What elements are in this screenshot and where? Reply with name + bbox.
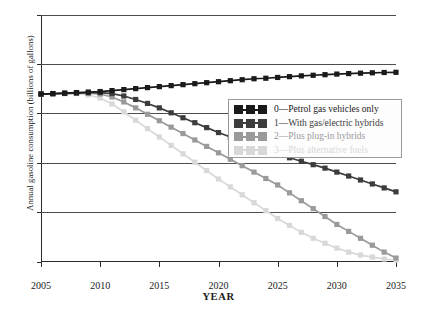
data-point-marker bbox=[192, 81, 197, 86]
data-point-marker bbox=[180, 115, 185, 120]
x-tick-mark bbox=[100, 262, 101, 267]
data-point-marker bbox=[228, 78, 233, 83]
legend-marker-icon bbox=[234, 146, 267, 155]
legend-marker-icon bbox=[234, 119, 267, 128]
legend-label: 0—Petrol gas vehicles only bbox=[274, 103, 379, 117]
data-point-marker bbox=[251, 169, 256, 174]
data-point-marker bbox=[204, 144, 209, 149]
data-point-marker bbox=[299, 198, 304, 203]
data-point-marker bbox=[370, 254, 375, 259]
data-point-marker bbox=[204, 168, 209, 173]
data-point-marker bbox=[322, 166, 327, 171]
x-tick-label: 2010 bbox=[78, 280, 122, 291]
data-point-marker bbox=[382, 185, 387, 190]
data-point-marker bbox=[311, 162, 316, 167]
data-point-marker bbox=[121, 93, 126, 98]
data-point-marker bbox=[370, 243, 375, 248]
chart-figure: Annual gasoline consumption (billions of… bbox=[0, 0, 433, 313]
data-point-marker bbox=[263, 208, 268, 213]
data-point-marker bbox=[133, 118, 138, 123]
legend-item-2[interactable]: 2—Plus plug-in hybrids bbox=[234, 130, 397, 144]
data-point-marker bbox=[393, 189, 398, 194]
legend-marker-icon bbox=[234, 105, 267, 114]
data-point-marker bbox=[393, 70, 398, 75]
legend-marker-icon bbox=[234, 132, 267, 141]
x-tick-label: 2005 bbox=[19, 280, 63, 291]
data-point-marker bbox=[228, 184, 233, 189]
data-point-marker bbox=[251, 76, 256, 81]
x-tick-label: 2020 bbox=[197, 280, 241, 291]
data-point-marker bbox=[275, 182, 280, 187]
data-point-marker bbox=[358, 177, 363, 182]
data-point-marker bbox=[109, 101, 114, 106]
data-point-marker bbox=[346, 250, 351, 255]
data-point-marker bbox=[121, 87, 126, 92]
legend-label: 1—With gas/electric hybrids bbox=[274, 117, 383, 131]
data-point-marker bbox=[287, 74, 292, 79]
data-point-marker bbox=[358, 252, 363, 257]
data-point-marker bbox=[358, 71, 363, 76]
data-point-marker bbox=[192, 160, 197, 165]
data-point-marker bbox=[334, 222, 339, 227]
data-point-marker bbox=[192, 137, 197, 142]
data-point-marker bbox=[334, 71, 339, 76]
legend-item-3[interactable]: 3—Plus alternative fuels bbox=[234, 144, 397, 158]
x-tick-mark bbox=[278, 262, 279, 267]
data-point-marker bbox=[322, 241, 327, 246]
data-point-marker bbox=[287, 223, 292, 228]
x-tick-label: 2030 bbox=[315, 280, 359, 291]
data-point-marker bbox=[311, 73, 316, 78]
data-point-marker bbox=[180, 82, 185, 87]
series-0 bbox=[38, 70, 398, 97]
data-point-marker bbox=[346, 229, 351, 234]
data-point-marker bbox=[299, 73, 304, 78]
data-point-marker bbox=[382, 250, 387, 255]
data-point-marker bbox=[121, 99, 126, 104]
data-point-marker bbox=[393, 255, 398, 260]
data-point-marker bbox=[311, 236, 316, 241]
data-point-marker bbox=[263, 176, 268, 181]
data-point-marker bbox=[299, 159, 304, 164]
legend-item-1[interactable]: 1—With gas/electric hybrids bbox=[234, 117, 397, 131]
data-point-marker bbox=[98, 89, 103, 94]
data-point-marker bbox=[216, 176, 221, 181]
x-tick-mark bbox=[41, 262, 42, 267]
data-point-marker bbox=[240, 192, 245, 197]
data-point-marker bbox=[145, 126, 150, 131]
data-point-marker bbox=[74, 90, 79, 95]
data-point-marker bbox=[263, 76, 268, 81]
data-point-marker bbox=[169, 125, 174, 130]
data-point-marker bbox=[157, 84, 162, 89]
x-tick-mark bbox=[337, 262, 338, 267]
data-point-marker bbox=[145, 85, 150, 90]
data-point-marker bbox=[334, 169, 339, 174]
data-point-marker bbox=[133, 97, 138, 102]
data-point-marker bbox=[240, 77, 245, 82]
data-point-marker bbox=[133, 105, 138, 110]
data-point-marker bbox=[216, 150, 221, 155]
x-tick-label: 2035 bbox=[374, 280, 418, 291]
legend-item-0[interactable]: 0—Petrol gas vehicles only bbox=[234, 103, 397, 117]
data-point-marker bbox=[180, 131, 185, 136]
data-point-marker bbox=[204, 80, 209, 85]
data-point-marker bbox=[50, 91, 55, 96]
data-point-marker bbox=[145, 101, 150, 106]
data-point-marker bbox=[121, 109, 126, 114]
x-tick-mark bbox=[219, 262, 220, 267]
data-point-marker bbox=[382, 70, 387, 75]
data-point-marker bbox=[109, 88, 114, 93]
data-point-marker bbox=[311, 206, 316, 211]
legend-label: 3—Plus alternative fuels bbox=[274, 144, 368, 158]
data-point-marker bbox=[299, 230, 304, 235]
chart-legend: 0—Petrol gas vehicles only1—With gas/ele… bbox=[228, 99, 402, 158]
data-point-marker bbox=[382, 256, 387, 261]
data-point-marker bbox=[86, 89, 91, 94]
data-point-marker bbox=[62, 90, 67, 95]
data-point-marker bbox=[322, 214, 327, 219]
data-point-marker bbox=[251, 200, 256, 205]
data-point-marker bbox=[322, 72, 327, 77]
data-point-marker bbox=[204, 125, 209, 130]
data-point-marker bbox=[287, 190, 292, 195]
data-point-marker bbox=[192, 120, 197, 125]
data-point-marker bbox=[346, 173, 351, 178]
